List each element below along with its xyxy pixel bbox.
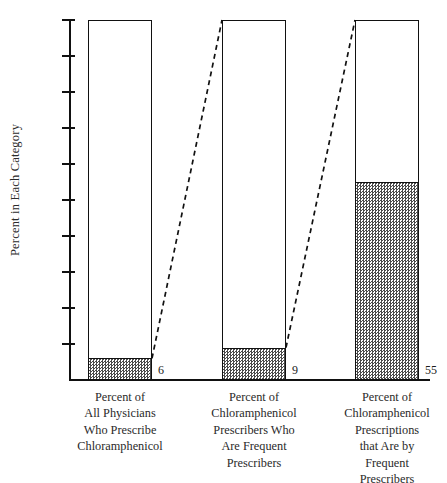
- y-tick-mark: [62, 271, 75, 273]
- category-caption: Percent of Chloramphenicol Prescriptions…: [312, 389, 447, 483]
- bar-fill: [222, 348, 286, 380]
- bar-outline: [88, 20, 152, 380]
- bar-fill: [355, 182, 419, 380]
- bar-value-label: 55: [425, 363, 437, 378]
- bar-outline: [222, 20, 286, 380]
- chart-figure: Percent in Each Category 100908070605040…: [0, 0, 447, 483]
- category-caption: Percent of All Physicians Who Prescribe …: [45, 389, 195, 455]
- bar-value-label: 9: [292, 363, 298, 378]
- y-tick-mark: [62, 91, 75, 93]
- category-caption: Percent of Chloramphenicol Prescribers W…: [179, 389, 329, 471]
- bar-fill: [88, 358, 152, 380]
- y-tick-mark: [62, 307, 75, 309]
- y-tick-mark: [62, 127, 75, 129]
- y-tick-mark: [62, 55, 75, 57]
- y-tick-mark: [62, 199, 75, 201]
- y-axis-title: Percent in Each Category: [4, 0, 26, 380]
- y-tick-mark: [62, 343, 75, 345]
- dashed-connector-line: [286, 20, 355, 348]
- y-tick-mark: [62, 19, 75, 21]
- bar-value-label: 6: [158, 363, 164, 378]
- dashed-connector-line: [152, 20, 222, 358]
- y-tick-mark: [62, 235, 75, 237]
- y-tick-mark: [62, 163, 75, 165]
